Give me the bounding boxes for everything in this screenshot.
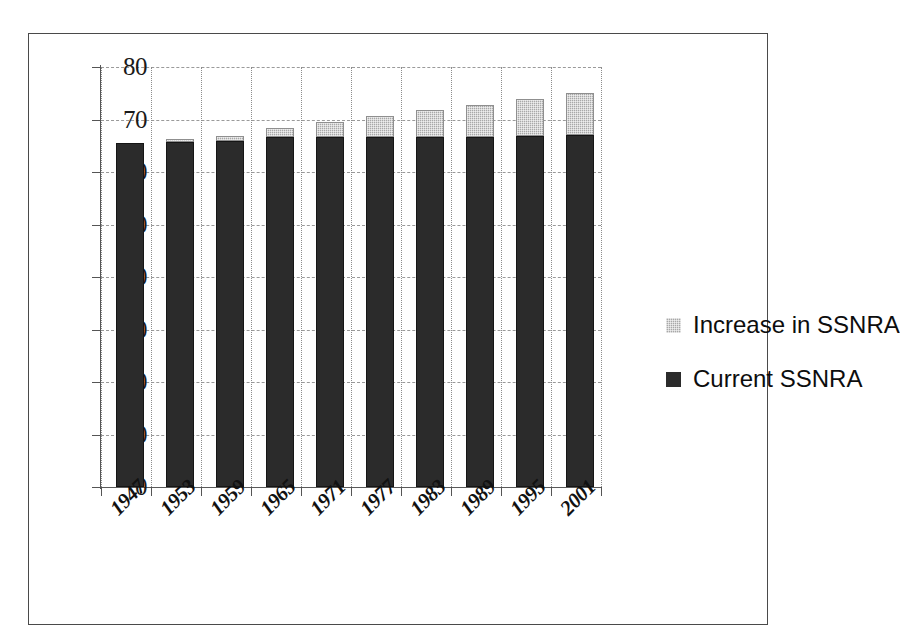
x-tick-mark-1959 <box>201 487 202 496</box>
bar-segment-current-1995[interactable] <box>516 136 544 487</box>
vertical-gridline-5 <box>351 67 352 487</box>
x-tick-mark-1977 <box>351 487 352 496</box>
x-tick-label-2001: 2001 <box>555 475 601 521</box>
bar-segment-current-1959[interactable] <box>216 141 244 488</box>
bar-1971[interactable] <box>316 122 344 487</box>
chart-legend: Increase in SSNRACurrent SSNRA <box>666 311 896 419</box>
x-tick-label-1989: 1989 <box>455 475 501 521</box>
y-tick-label-70: 70 <box>123 106 147 134</box>
bar-1947[interactable] <box>116 143 144 487</box>
x-tick-mark-1953 <box>151 487 152 496</box>
legend-label-increase: Increase in SSNRA <box>693 311 900 339</box>
bar-segment-current-1971[interactable] <box>316 137 344 487</box>
bar-segment-current-1989[interactable] <box>466 137 494 487</box>
vertical-gridline-4 <box>301 67 302 487</box>
bar-segment-current-2001[interactable] <box>566 135 594 487</box>
x-tick-label-1971: 1971 <box>305 475 351 521</box>
bar-segment-increase-1971[interactable] <box>316 122 344 137</box>
bar-1965[interactable] <box>266 128 294 487</box>
legend-item-increase[interactable]: Increase in SSNRA <box>666 311 896 339</box>
bar-1953[interactable] <box>166 139 194 487</box>
y-tick-mark-0 <box>92 487 101 488</box>
bar-segment-increase-1989[interactable] <box>466 105 494 137</box>
x-tick-label-1995: 1995 <box>505 475 551 521</box>
legend-swatch-current-icon <box>666 372 681 387</box>
legend-item-current[interactable]: Current SSNRA <box>666 365 896 393</box>
plot-area: 80706050403020100 1947195319591965197119… <box>101 67 601 487</box>
x-tick-mark-end <box>601 487 602 496</box>
bar-segment-current-1977[interactable] <box>366 137 394 487</box>
y-tick-label-80: 80 <box>123 53 147 81</box>
bar-segment-increase-2001[interactable] <box>566 93 594 135</box>
vertical-gridline-8 <box>501 67 502 487</box>
vertical-gridline-2 <box>201 67 202 487</box>
bar-1959[interactable] <box>216 136 244 487</box>
vertical-gridline-9 <box>551 67 552 487</box>
x-tick-label-1953: 1953 <box>155 475 201 521</box>
x-tick-mark-1971 <box>301 487 302 496</box>
x-tick-mark-1983 <box>401 487 402 496</box>
x-tick-mark-2001 <box>551 487 552 496</box>
bar-segment-current-1953[interactable] <box>166 142 194 487</box>
bar-1995[interactable] <box>516 99 544 487</box>
bar-segment-increase-1995[interactable] <box>516 99 544 136</box>
bar-segment-increase-1983[interactable] <box>416 110 444 137</box>
bar-segment-increase-1977[interactable] <box>366 116 394 136</box>
bar-1977[interactable] <box>366 116 394 487</box>
x-tick-label-1965: 1965 <box>255 475 301 521</box>
chart-frame: 80706050403020100 1947195319591965197119… <box>28 33 768 625</box>
bar-1983[interactable] <box>416 110 444 487</box>
x-tick-mark-1995 <box>501 487 502 496</box>
x-tick-mark-1989 <box>451 487 452 496</box>
vertical-gridline-6 <box>401 67 402 487</box>
x-tick-label-1977: 1977 <box>355 475 401 521</box>
x-tick-mark-1947 <box>101 487 102 496</box>
bar-2001[interactable] <box>566 93 594 487</box>
bar-segment-current-1983[interactable] <box>416 137 444 487</box>
x-tick-mark-1965 <box>251 487 252 496</box>
legend-swatch-increase-icon <box>666 318 681 333</box>
bar-segment-current-1965[interactable] <box>266 137 294 487</box>
bar-1989[interactable] <box>466 105 494 487</box>
legend-label-current: Current SSNRA <box>693 365 862 393</box>
vertical-gridline-7 <box>451 67 452 487</box>
vertical-gridline-10 <box>601 67 602 487</box>
bar-segment-increase-1965[interactable] <box>266 128 294 137</box>
bar-segment-current-1947[interactable] <box>116 143 144 487</box>
vertical-gridline-1 <box>151 67 152 487</box>
vertical-gridline-3 <box>251 67 252 487</box>
x-tick-label-1959: 1959 <box>205 475 251 521</box>
x-tick-label-1983: 1983 <box>405 475 451 521</box>
